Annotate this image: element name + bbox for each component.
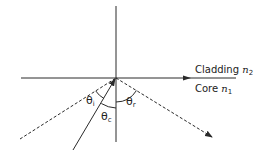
label-theta-c: θc [101, 110, 112, 124]
label-cladding: Cladding n2 [195, 64, 253, 77]
dashed-ray-left [20, 78, 116, 139]
arc-theta-c [101, 104, 116, 109]
arc-theta-i [96, 91, 104, 99]
interface-arrow-icon [183, 76, 191, 81]
fiber-reflection-diagram: θi θc θr Cladding n2 Core n1 [0, 0, 260, 156]
label-theta-i: θi [86, 94, 95, 108]
incident-ray [73, 79, 115, 150]
label-theta-r: θr [126, 95, 136, 109]
label-core: Core n1 [195, 83, 232, 96]
